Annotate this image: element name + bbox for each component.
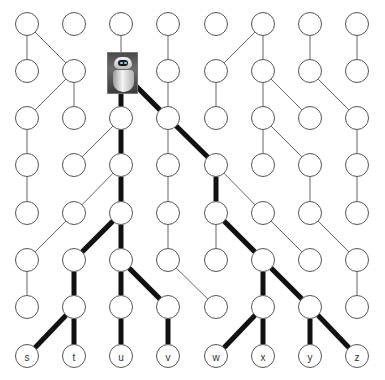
node-circle xyxy=(110,154,133,177)
tree-node xyxy=(63,13,86,36)
tree-edge xyxy=(82,126,113,157)
tree-edge xyxy=(271,221,302,252)
leaf-label: t xyxy=(73,352,76,363)
tree-node xyxy=(346,249,369,272)
tree-node xyxy=(157,154,180,177)
tree-node xyxy=(63,296,86,319)
tree-node xyxy=(346,154,369,177)
tree-node xyxy=(252,249,275,272)
node-circle xyxy=(252,202,275,225)
leaf-node-v: v xyxy=(157,345,180,368)
node-circle xyxy=(63,13,86,36)
node-circle xyxy=(299,60,322,83)
robot-icon xyxy=(107,52,138,94)
robot-visor xyxy=(118,60,128,66)
tree-node xyxy=(16,296,39,319)
tree-node xyxy=(110,13,133,36)
tree-diagram: stuvwxyz xyxy=(0,0,385,380)
node-circle xyxy=(346,202,369,225)
node-circle xyxy=(299,296,322,319)
node-circle xyxy=(157,296,180,319)
leaf-label: z xyxy=(355,352,360,363)
tree-node xyxy=(252,154,275,177)
node-circle xyxy=(205,60,228,83)
leaf-node-z: z xyxy=(346,345,369,368)
node-circle xyxy=(157,154,180,177)
node-circle xyxy=(346,60,369,83)
node-circle xyxy=(346,249,369,272)
tree-node xyxy=(110,107,133,130)
leaf-node-t: t xyxy=(63,345,86,368)
tree-node xyxy=(252,202,275,225)
tree-node xyxy=(63,202,86,225)
node-circle xyxy=(110,107,133,130)
tree-node xyxy=(63,154,86,177)
tree-diagram-canvas: stuvwxyz xyxy=(0,0,385,380)
node-circle xyxy=(252,107,275,130)
tree-edge xyxy=(224,173,255,205)
node-circle xyxy=(205,154,228,177)
tree-edge xyxy=(271,126,302,157)
robot-eye-right xyxy=(124,62,127,64)
tree-node xyxy=(299,60,322,83)
path-edge xyxy=(82,221,113,252)
leaf-label: s xyxy=(25,352,30,363)
node-circle xyxy=(63,296,86,319)
node-circle xyxy=(16,249,39,272)
node-circle xyxy=(346,154,369,177)
node-circle xyxy=(157,60,180,83)
path-edge xyxy=(176,126,208,157)
tree-node xyxy=(299,202,322,225)
tree-node xyxy=(205,296,228,319)
node-circle xyxy=(63,154,86,177)
tree-node xyxy=(16,202,39,225)
tree-node xyxy=(205,154,228,177)
tree-edge xyxy=(35,221,66,252)
node-circle xyxy=(16,13,39,36)
node-circle xyxy=(252,296,275,319)
tree-node xyxy=(110,249,133,272)
tree-node xyxy=(346,60,369,83)
leaf-node-u: u xyxy=(110,345,133,368)
tree-node xyxy=(299,249,322,272)
tree-node xyxy=(110,202,133,225)
tree-node xyxy=(157,249,180,272)
leaf-node-y: y xyxy=(299,345,322,368)
node-circle xyxy=(299,13,322,36)
path-edge xyxy=(224,221,255,252)
leaf-label: w xyxy=(211,352,220,363)
tree-node xyxy=(346,13,369,36)
tree-node xyxy=(63,60,86,83)
tree-node xyxy=(299,154,322,177)
node-circle xyxy=(16,60,39,83)
leaf-node-s: s xyxy=(16,345,39,368)
node-circle xyxy=(346,296,369,319)
node-circle xyxy=(299,202,322,225)
node-circle xyxy=(63,202,86,225)
node-circle xyxy=(205,296,228,319)
tree-node xyxy=(346,202,369,225)
node-circle xyxy=(299,107,322,130)
path-edge xyxy=(35,315,66,347)
robot-eye-left xyxy=(120,62,123,64)
node-circle xyxy=(299,249,322,272)
tree-node xyxy=(110,296,133,319)
tree-node xyxy=(205,249,228,272)
node-circle xyxy=(252,13,275,36)
node-circle xyxy=(16,154,39,177)
node-circle xyxy=(346,107,369,130)
tree-node xyxy=(252,107,275,130)
node-circle xyxy=(205,202,228,225)
leaf-label: u xyxy=(118,352,124,363)
tree-node xyxy=(16,60,39,83)
node-circle xyxy=(63,60,86,83)
path-edge xyxy=(224,315,255,347)
tree-node xyxy=(346,107,369,130)
tree-edge xyxy=(318,221,349,252)
tree-node xyxy=(252,60,275,83)
tree-edge xyxy=(176,268,208,299)
node-circle xyxy=(299,154,322,177)
tree-node xyxy=(16,249,39,272)
tree-edge xyxy=(318,79,349,110)
node-circle xyxy=(16,107,39,130)
